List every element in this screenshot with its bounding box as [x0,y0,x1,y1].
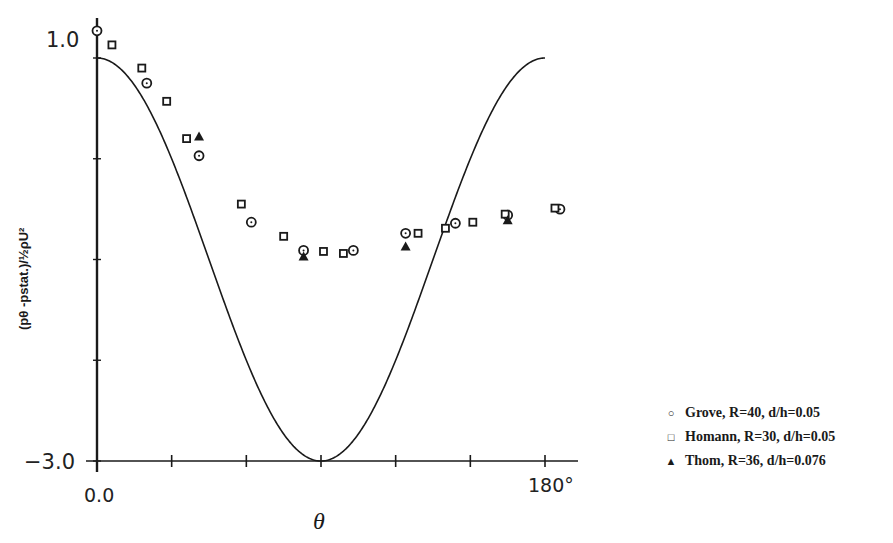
x-axis-title: θ [313,508,325,535]
x-max-label: 180° [528,474,574,496]
legend-item-thom: ▲ Thom, R=36, d/h=0.076 [665,449,835,473]
y-axis-title: (pθ -pstat.)/½ρU² [16,170,46,330]
theory-curve [97,58,545,461]
triangle-marker-icon: ▲ [665,449,677,473]
legend: ○ Grove, R=40, d/h=0.05 □ Homann, R=30, … [665,401,835,473]
data-points [93,26,565,260]
y-min-label: −3.0 [24,450,75,474]
legend-label: Thom, R=36, d/h=0.076 [685,449,826,473]
axes [86,18,578,472]
square-marker-icon: □ [665,425,677,449]
legend-item-grove: ○ Grove, R=40, d/h=0.05 [665,401,835,425]
y-max-label: 1.0 [46,28,79,52]
legend-label: Homann, R=30, d/h=0.05 [685,425,835,449]
x-min-label: 0.0 [84,484,114,506]
legend-label: Grove, R=40, d/h=0.05 [685,401,820,425]
circle-marker-icon: ○ [665,401,677,425]
legend-item-homann: □ Homann, R=30, d/h=0.05 [665,425,835,449]
